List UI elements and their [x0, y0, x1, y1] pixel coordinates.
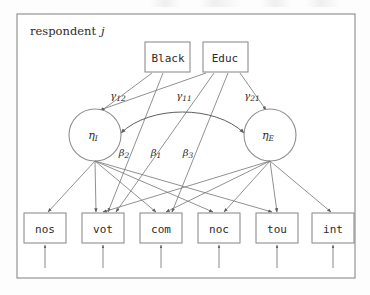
nos-box-label: nos [35, 223, 55, 236]
exogenous-box-educ[interactable]: Educ [203, 42, 248, 72]
latent-node-etaI[interactable]: ηI [69, 109, 121, 161]
int-box-label: int [323, 223, 343, 236]
indicator-box-nos[interactable]: nos [24, 213, 66, 243]
indicator-box-int[interactable]: int [312, 213, 354, 243]
indicator-box-noc[interactable]: noc [198, 213, 240, 243]
vot-box-label: vot [93, 223, 113, 236]
exogenous-box-black[interactable]: Black [145, 42, 190, 72]
indicator-box-vot[interactable]: vot [82, 213, 124, 243]
indicator-box-com[interactable]: com [140, 213, 182, 243]
latent-node-etaE[interactable]: ηE [244, 109, 296, 161]
noc-box-label: noc [209, 223, 229, 236]
plate-title: respondentj [30, 24, 105, 38]
plate-title-text: respondent [30, 24, 96, 38]
sem-path-diagram: respondentj Black Educ ηI [0, 0, 370, 295]
educ-box-label: Educ [212, 52, 239, 65]
com-box-label: com [151, 223, 171, 236]
diagram-canvas: respondentj Black Educ ηI [0, 0, 370, 295]
indicator-box-tou[interactable]: tou [256, 213, 298, 243]
black-box-label: Black [151, 52, 184, 65]
tou-box-label: tou [267, 223, 287, 236]
